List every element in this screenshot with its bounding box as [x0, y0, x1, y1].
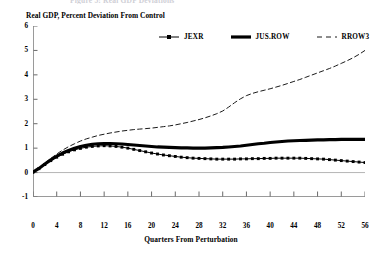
x-tick-label: 52 [332, 222, 350, 230]
series-marker [168, 154, 171, 157]
series-marker [298, 157, 301, 160]
series-marker [286, 157, 289, 160]
series-marker [120, 146, 123, 149]
series-marker [138, 149, 141, 152]
series-marker [186, 156, 189, 159]
series-marker [275, 157, 278, 160]
series-marker [364, 161, 365, 164]
plot-area [33, 26, 365, 197]
x-tick-label: 8 [71, 222, 89, 230]
plot-canvas [33, 26, 365, 197]
series-marker [328, 158, 331, 161]
x-tick-label: 24 [166, 222, 184, 230]
series-marker [126, 147, 129, 150]
series-marker [198, 157, 201, 160]
series-marker [115, 145, 118, 148]
x-tick-label: 48 [309, 222, 327, 230]
series-marker [144, 150, 147, 153]
chart-subtitle: Real GDP, Percent Deviation From Control [26, 11, 165, 20]
series-marker [132, 148, 135, 151]
x-tick-label: 4 [48, 222, 66, 230]
x-tick-label: 28 [190, 222, 208, 230]
series-marker [316, 157, 319, 160]
x-tick-label: 36 [237, 222, 255, 230]
series-marker [358, 161, 361, 164]
series-marker [304, 157, 307, 160]
series-marker [352, 160, 355, 163]
y-tick-label: -1 [14, 193, 28, 201]
series-marker [322, 158, 325, 161]
series-marker [180, 156, 183, 159]
y-tick-label: 3 [14, 95, 28, 103]
series-marker [334, 159, 337, 162]
series-marker [245, 157, 248, 160]
series-marker [227, 158, 230, 161]
series-marker [346, 160, 349, 163]
series-marker [150, 152, 153, 155]
chart-figure: Figure 5: Real GDP Deviations Real GDP, … [0, 0, 382, 262]
series-marker [233, 158, 236, 161]
series-marker [239, 157, 242, 160]
series-marker [203, 157, 206, 160]
clipped-title-fragment: Figure 5: Real GDP Deviations [70, 0, 320, 4]
y-tick-label: 4 [14, 71, 28, 79]
series-marker [310, 157, 313, 160]
series-line-rrow3 [33, 50, 365, 172]
series-marker [192, 157, 195, 160]
x-axis-title: Quarters From Perturbation [0, 235, 382, 244]
y-tick-label: 2 [14, 120, 28, 128]
series-marker [281, 157, 284, 160]
series-line-jus-row [33, 139, 365, 172]
series-marker [221, 158, 224, 161]
series-marker [257, 157, 260, 160]
x-tick-label: 44 [285, 222, 303, 230]
series-marker [156, 153, 159, 156]
series-marker [292, 157, 295, 160]
y-tick-label: 6 [14, 22, 28, 30]
series-marker [340, 159, 343, 162]
series-marker [251, 157, 254, 160]
x-tick-label: 12 [95, 222, 113, 230]
x-tick-label: 20 [143, 222, 161, 230]
series-marker [215, 158, 218, 161]
x-tick-label: 40 [261, 222, 279, 230]
x-tick-label: 32 [214, 222, 232, 230]
y-tick-label: 0 [14, 169, 28, 177]
series-marker [269, 157, 272, 160]
series-marker [174, 155, 177, 158]
series-marker [209, 157, 212, 160]
x-tick-label: 0 [24, 222, 42, 230]
series-marker [263, 157, 266, 160]
y-tick-label: 5 [14, 46, 28, 54]
y-tick-label: 1 [14, 144, 28, 152]
x-tick-label: 16 [119, 222, 137, 230]
series-marker [162, 154, 165, 157]
x-tick-label: 56 [356, 222, 374, 230]
